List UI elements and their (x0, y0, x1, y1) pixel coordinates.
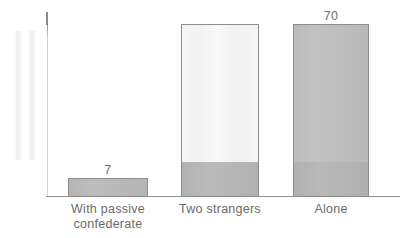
bar-fill-passive-confederate (69, 179, 147, 196)
bar-chart: 7 70 With passive confederate Two strang… (0, 0, 410, 238)
value-label-with-passive-confederate: 7 (68, 163, 148, 177)
bar-fill-upper-alone (294, 25, 368, 164)
ghost-strip-left-b (29, 31, 36, 160)
x-axis-label-two-strangers: Two strangers (172, 202, 268, 217)
y-axis-top-cap (46, 12, 48, 25)
y-axis-line (47, 12, 48, 196)
value-label-alone: 70 (293, 9, 369, 23)
x-axis-label-line-1: Alone (293, 202, 369, 217)
x-axis-label-line-1: With passive (48, 202, 168, 217)
bar-fill-lower-band-two-strangers (182, 162, 258, 196)
x-axis-label-line-2: confederate (48, 217, 168, 232)
x-axis-label-alone: Alone (293, 202, 369, 217)
bar-fill-upper-two-strangers (182, 25, 258, 164)
ghost-strip-left-a (15, 31, 22, 160)
bar-fill-lower-band-alone (294, 162, 368, 196)
x-axis-label-line-1: Two strangers (172, 202, 268, 217)
bar-two-strangers[interactable] (181, 24, 259, 197)
bar-alone[interactable] (293, 24, 369, 197)
x-axis-label-with-passive-confederate: With passive confederate (48, 202, 168, 231)
bar-with-passive-confederate[interactable] (68, 178, 148, 197)
